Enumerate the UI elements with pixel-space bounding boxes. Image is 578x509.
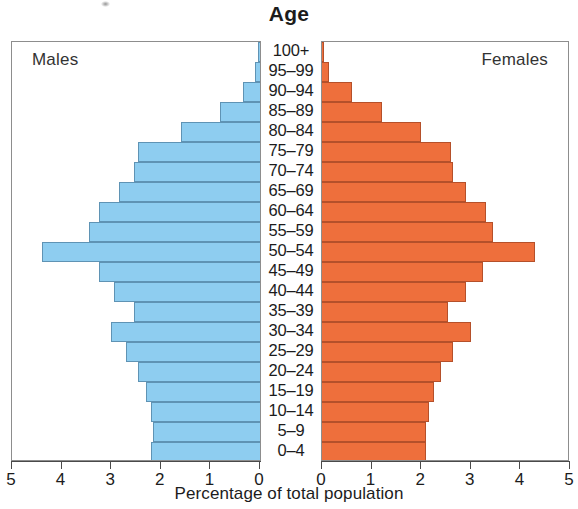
age-label-25–29: 25–29 (261, 341, 321, 361)
axis-tick (519, 461, 520, 469)
bar-males-90–94 (243, 82, 260, 102)
age-label-90–94: 90–94 (261, 81, 321, 101)
axis-tick (371, 461, 372, 469)
bar-males-60–64 (99, 202, 260, 222)
age-label-100+: 100+ (261, 41, 321, 61)
age-label-40–44: 40–44 (261, 281, 321, 301)
bar-females-15–19 (322, 382, 434, 402)
bar-row (322, 362, 568, 382)
age-label-35–39: 35–39 (261, 301, 321, 321)
bar-row (12, 222, 260, 242)
bar-row (12, 82, 260, 102)
bar-females-0–4 (322, 442, 426, 461)
bar-row (322, 262, 568, 282)
axis-tick (569, 461, 570, 469)
age-label-75–79: 75–79 (261, 141, 321, 161)
bar-males-10–14 (151, 402, 260, 422)
bar-males-80–84 (181, 122, 260, 142)
bar-row (322, 282, 568, 302)
bar-females-70–74 (322, 162, 453, 182)
bar-males-70–74 (134, 162, 260, 182)
bar-row (322, 322, 568, 342)
axis-tick (420, 461, 421, 469)
males-bar-group (12, 42, 260, 460)
males-panel: Males (11, 41, 261, 461)
bar-females-40–44 (322, 282, 466, 302)
bar-row (12, 382, 260, 402)
bar-row (322, 162, 568, 182)
bar-males-65–69 (119, 182, 260, 202)
bar-row (12, 422, 260, 442)
females-value-axis: 012345 (321, 461, 569, 470)
bar-females-60–64 (322, 202, 486, 222)
bar-row (12, 242, 260, 262)
bar-row (12, 262, 260, 282)
bar-row (12, 102, 260, 122)
bar-row (12, 342, 260, 362)
bar-row (322, 182, 568, 202)
age-label-55–59: 55–59 (261, 221, 321, 241)
age-label-50–54: 50–54 (261, 241, 321, 261)
bar-females-55–59 (322, 222, 493, 242)
bar-row (12, 182, 260, 202)
bar-females-90–94 (322, 82, 352, 102)
bar-row (12, 62, 260, 82)
bar-row (322, 342, 568, 362)
bar-row (12, 282, 260, 302)
age-label-15–19: 15–19 (261, 381, 321, 401)
axis-tick (321, 461, 322, 469)
females-bar-group (322, 42, 568, 460)
bar-females-20–24 (322, 362, 441, 382)
bar-row (322, 122, 568, 142)
bar-males-45–49 (99, 262, 260, 282)
bar-row (12, 402, 260, 422)
bar-males-0–4 (151, 442, 260, 461)
age-label-30–34: 30–34 (261, 321, 321, 341)
bar-row (322, 402, 568, 422)
axis-tick (209, 461, 210, 469)
bar-males-25–29 (126, 342, 260, 362)
age-label-65–69: 65–69 (261, 181, 321, 201)
bar-females-100+ (322, 42, 324, 62)
bar-males-50–54 (42, 242, 260, 262)
females-axis-line (321, 461, 569, 462)
bar-females-50–54 (322, 242, 535, 262)
males-axis-line (11, 461, 261, 462)
axis-tick (259, 461, 260, 469)
bar-row (322, 202, 568, 222)
axis-tick (110, 461, 111, 469)
bar-females-35–39 (322, 302, 448, 322)
bar-males-100+ (258, 42, 260, 62)
bar-females-45–49 (322, 262, 483, 282)
bar-row (12, 362, 260, 382)
age-label-80–84: 80–84 (261, 121, 321, 141)
bar-males-20–24 (138, 362, 260, 382)
bar-row (322, 42, 568, 62)
age-label-0–4: 0–4 (261, 441, 321, 461)
bar-row (12, 122, 260, 142)
chart-title: Age (0, 2, 578, 26)
axis-tick (61, 461, 62, 469)
bar-row (12, 142, 260, 162)
bar-males-35–39 (134, 302, 260, 322)
bar-row (12, 322, 260, 342)
bar-row (322, 242, 568, 262)
bar-row (12, 442, 260, 461)
age-label-60–64: 60–64 (261, 201, 321, 221)
bar-males-15–19 (146, 382, 260, 402)
age-label-5–9: 5–9 (261, 421, 321, 441)
bar-row (12, 42, 260, 62)
bar-row (322, 302, 568, 322)
bar-females-95–99 (322, 62, 329, 82)
age-label-95–99: 95–99 (261, 61, 321, 81)
bar-females-25–29 (322, 342, 453, 362)
bar-females-5–9 (322, 422, 426, 442)
bar-row (12, 202, 260, 222)
age-category-axis: 100+95–9990–9485–8980–8475–7970–7465–696… (261, 41, 321, 461)
bar-row (322, 102, 568, 122)
age-label-85–89: 85–89 (261, 101, 321, 121)
bar-males-95–99 (255, 62, 260, 82)
bar-row (12, 302, 260, 322)
age-label-45–49: 45–49 (261, 261, 321, 281)
bar-females-10–14 (322, 402, 429, 422)
